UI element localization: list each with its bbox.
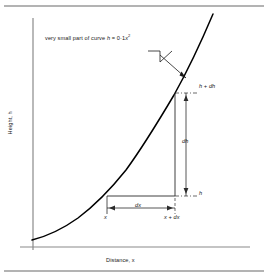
label-h-plus-dh: h + dh	[199, 84, 215, 90]
canvas-background	[0, 0, 268, 278]
figure-container: very small part of curve h = 0·1x2 Heigh…	[0, 0, 268, 278]
curve-callout-prefix: very small part of curve	[45, 35, 107, 41]
label-h: h	[199, 191, 202, 197]
curve-callout-note: very small part of curve h = 0·1x2	[45, 36, 130, 42]
diagram-canvas	[0, 0, 268, 278]
y-axis-label: Height, h	[8, 100, 14, 146]
label-dx: dx	[135, 203, 141, 209]
curve-callout-exponent: 2	[128, 33, 130, 38]
curve-callout-equals: = 0·1	[110, 35, 125, 41]
label-x-plus-dx: x + dx	[164, 215, 180, 221]
x-axis-label: Distance, x	[106, 258, 135, 264]
label-x: x	[104, 215, 107, 221]
label-dh: dh	[182, 139, 188, 145]
